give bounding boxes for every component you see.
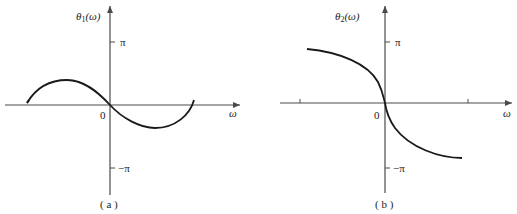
panel-a: θ1(ω) π −π 0 ω ( a ) (5, 6, 240, 211)
phase-diagrams: θ1(ω) π −π 0 ω ( a ) θ2(ω) π −π 0 ω ( b … (0, 0, 517, 214)
y-axis-label-b: θ2(ω) (335, 10, 360, 24)
x-axis-label-b: ω (503, 107, 511, 119)
curve-a-start-hook (27, 100, 29, 103)
neg-pi-label-b: −π (393, 162, 405, 174)
caption-a: ( a ) (100, 198, 118, 211)
y-axis-label-a: θ1(ω) (76, 10, 101, 24)
pi-label-b: π (395, 36, 401, 48)
neg-pi-label-a: −π (118, 162, 130, 174)
origin-label-b: 0 (374, 109, 380, 121)
panel-b: θ2(ω) π −π 0 ω ( b ) (280, 6, 512, 211)
origin-label-a: 0 (100, 109, 106, 121)
pi-label-a: π (120, 36, 126, 48)
x-axis-label-a: ω (229, 107, 237, 119)
caption-b: ( b ) (375, 198, 394, 211)
